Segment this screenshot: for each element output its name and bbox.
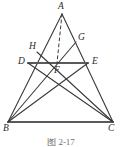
point-label-E: E	[92, 57, 98, 67]
point-label-H: H	[29, 42, 36, 52]
point-label-G: G	[78, 33, 85, 43]
point-label-C: C	[108, 124, 114, 134]
cevian-BE	[8, 63, 88, 122]
geometry-diagram	[0, 0, 122, 147]
point-label-D: D	[18, 57, 25, 67]
cevian-CD	[28, 63, 113, 122]
geometry-figure: A B C D E F G H 图 2-17	[0, 0, 122, 147]
side-AC	[62, 14, 113, 122]
figure-caption: 图 2-17	[0, 138, 122, 147]
point-label-A: A	[58, 2, 64, 12]
point-label-B: B	[3, 124, 9, 134]
point-label-F: F	[54, 66, 60, 76]
